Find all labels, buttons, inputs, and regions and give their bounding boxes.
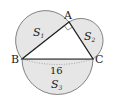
geometry-diagram: A B C S1 S2 S3 16 [0, 0, 113, 106]
point-label-a: A [63, 9, 73, 22]
point-label-c: C [95, 53, 103, 66]
point-label-b: B [11, 53, 19, 66]
side-length-bc: 16 [50, 65, 63, 76]
